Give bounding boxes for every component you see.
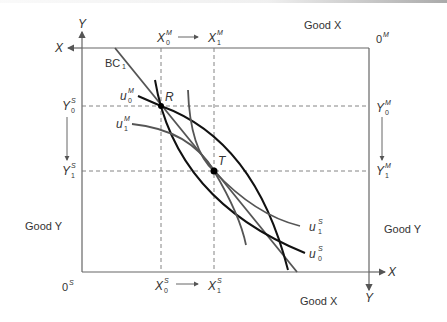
svg-text:1: 1 [217,39,221,46]
svg-text:M: M [124,115,130,122]
svg-text:S: S [69,279,74,286]
point-r [158,103,164,109]
svg-text:BC: BC [105,57,120,69]
axis-arrows [68,32,385,290]
curve-u0m-label: u M 0 [120,87,134,104]
curve-u1m [132,124,246,245]
point-r-label: R [165,90,174,104]
box-frame [82,48,369,272]
bottom-x-axis-label: X [387,265,397,279]
svg-text:S: S [318,245,323,252]
svg-text:X: X [154,279,164,293]
dashed-guides [82,48,369,272]
origin-m-label: 0 M [376,31,389,45]
svg-text:0: 0 [376,33,382,45]
point-t [211,168,218,175]
svg-text:u: u [309,247,316,261]
svg-text:M: M [385,162,391,169]
tick-y0-m: Y M 0 [376,99,391,116]
svg-text:S: S [217,277,222,284]
svg-text:Y: Y [62,99,71,113]
good-x-bottom-label: Good X [300,295,338,307]
svg-text:Y: Y [62,164,71,178]
curve-u1m-label: u M 1 [116,115,130,132]
svg-text:1: 1 [124,125,128,132]
svg-text:u: u [120,89,127,103]
tick-x1-m: X M 1 [207,29,223,46]
tick-y1-s: Y S 1 [62,162,76,179]
top-y-axis-label: Y [78,17,87,31]
svg-text:u: u [309,220,316,234]
svg-text:M: M [128,87,134,94]
bottom-y-axis-label: Y [365,291,374,305]
good-y-left-label: Good Y [25,220,63,232]
origin-s-label: 0 S [62,279,74,293]
svg-text:S: S [318,218,323,225]
svg-text:M: M [217,29,223,36]
svg-text:Y: Y [376,164,385,178]
svg-text:0: 0 [62,281,68,293]
svg-text:S: S [164,277,169,284]
svg-text:0: 0 [128,97,132,104]
svg-text:u: u [116,117,123,131]
svg-text:1: 1 [71,172,75,179]
svg-text:X: X [156,31,166,45]
svg-text:0: 0 [385,109,389,116]
tick-y0-s: Y S 0 [62,97,76,114]
svg-text:X: X [207,279,217,293]
tick-x0-m: X M 0 [156,29,172,46]
svg-text:M: M [383,31,389,38]
tick-y1-m: Y M 1 [376,162,391,179]
svg-text:0: 0 [71,107,75,114]
svg-text:Y: Y [376,101,385,115]
svg-text:1: 1 [318,228,322,235]
tick-x1-s: X S 1 [207,277,222,294]
svg-text:M: M [166,29,172,36]
svg-text:X: X [207,31,217,45]
tick-x0-s: X S 0 [154,277,169,294]
svg-text:0: 0 [318,255,322,262]
svg-text:S: S [71,162,76,169]
svg-text:S: S [71,97,76,104]
curve-u1s-label: u S 1 [309,218,323,235]
svg-text:M: M [385,99,391,106]
svg-text:1: 1 [385,172,389,179]
edgeworth-box-diagram: R T X Y X Y Good X Good X Good Y Good Y … [0,0,447,322]
point-t-label: T [218,154,227,168]
svg-text:0: 0 [164,287,168,294]
top-x-axis-label: X [54,41,64,55]
good-y-right-label: Good Y [384,223,422,235]
curve-u0s-label: u S 0 [309,245,323,262]
good-x-top-label: Good X [304,19,342,31]
svg-text:1: 1 [217,287,221,294]
svg-text:1: 1 [122,63,126,70]
svg-text:0: 0 [166,39,170,46]
curve-u0m [138,96,288,270]
